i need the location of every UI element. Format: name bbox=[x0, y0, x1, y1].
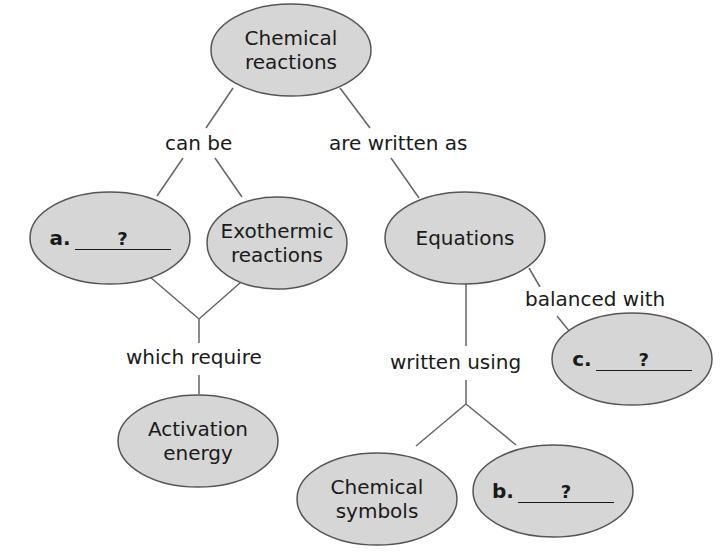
node-text-line1: Chemical bbox=[245, 26, 338, 50]
node-text-line1: Chemical bbox=[331, 475, 424, 499]
blank-b: b. ? bbox=[492, 479, 614, 503]
node-exothermic-reactions: Exothermic reactions bbox=[207, 197, 347, 289]
blank-letter: c. bbox=[572, 347, 591, 371]
link-label-balanced-with: balanced with bbox=[522, 287, 668, 311]
node-c: c. ? bbox=[552, 313, 712, 405]
link-label-can-be: can be bbox=[162, 131, 235, 155]
node-text-line2: reactions bbox=[245, 50, 337, 74]
blank-letter: a. bbox=[49, 226, 70, 250]
node-text-line2: reactions bbox=[231, 243, 323, 267]
link-label-written-using: written using bbox=[387, 350, 524, 374]
node-text-line2: symbols bbox=[336, 499, 419, 523]
blank-answer: ? bbox=[596, 350, 692, 371]
link-label-are-written-as: are written as bbox=[326, 131, 471, 155]
blank-letter: b. bbox=[492, 479, 514, 503]
node-equations: Equations bbox=[385, 192, 545, 284]
node-b: b. ? bbox=[473, 445, 633, 537]
node-a: a. ? bbox=[30, 192, 190, 284]
blank-answer: ? bbox=[75, 229, 171, 250]
concept-map: Chemical reactions a. ? Exothermic react… bbox=[0, 0, 726, 553]
node-text: Equations bbox=[416, 226, 515, 250]
node-activation-energy: Activation energy bbox=[118, 395, 278, 487]
blank-answer: ? bbox=[518, 482, 614, 503]
node-text-line1: Exothermic bbox=[221, 219, 334, 243]
node-text-line2: energy bbox=[163, 441, 233, 465]
node-chemical-symbols: Chemical symbols bbox=[297, 453, 457, 545]
blank-a: a. ? bbox=[49, 226, 170, 250]
node-text-line1: Activation bbox=[148, 417, 248, 441]
link-label-which-require: which require bbox=[123, 345, 265, 369]
blank-c: c. ? bbox=[572, 347, 691, 371]
node-chemical-reactions: Chemical reactions bbox=[211, 4, 371, 96]
